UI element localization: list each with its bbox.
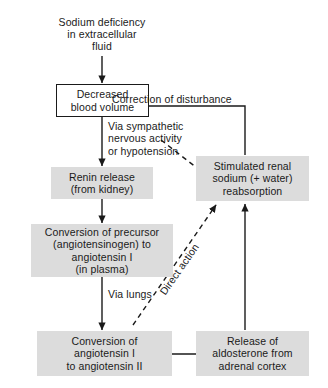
node-conversion-angiotensin: Conversion of angiotensin I to angiotens… bbox=[37, 331, 172, 376]
node-aldosterone-release: Release of aldosterone from adrenal cort… bbox=[196, 331, 309, 376]
edge-label-correction-of-disturbance: Correction of disturbance bbox=[112, 93, 262, 105]
diagram-canvas: Sodium deficiency in extracellular fluid… bbox=[0, 0, 328, 388]
edge-label-via-sympathetic: Via sympathetic nervous activity or hypo… bbox=[108, 120, 216, 157]
node-renin-release: Renin release (from kidney) bbox=[51, 167, 153, 199]
node-stimulated-reabsorption: Stimulated renal sodium (+ water) reabso… bbox=[196, 156, 309, 201]
node-sodium-deficiency: Sodium deficiency in extracellular fluid bbox=[34, 14, 170, 54]
node-conversion-precursor: Conversion of precursor (angiotensinogen… bbox=[31, 224, 173, 277]
